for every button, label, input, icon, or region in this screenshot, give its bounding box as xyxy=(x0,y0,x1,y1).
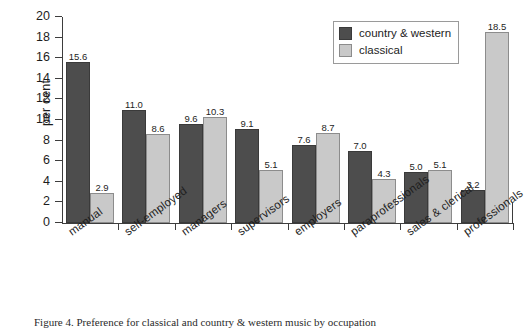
y-axis-tick-label: 2 xyxy=(43,193,50,209)
y-axis-tick: 18 xyxy=(55,37,62,38)
bar-value-label: 5.1 xyxy=(433,159,446,170)
y-axis-tick: 16 xyxy=(55,57,62,58)
bar-value-label: 9.6 xyxy=(184,113,197,124)
y-axis-tick-label: 4 xyxy=(43,173,50,189)
y-axis-tick-label: 0 xyxy=(43,214,50,230)
bar-value-label: 4.3 xyxy=(377,168,390,179)
legend-item-classical: classical xyxy=(339,43,451,58)
y-axis-tick-label: 14 xyxy=(36,70,50,86)
y-axis-tick: 20 xyxy=(55,16,62,17)
x-axis-separator-tick xyxy=(457,223,458,230)
bar-value-label: 15.6 xyxy=(69,51,88,62)
bar-value-label: 11.0 xyxy=(125,99,143,110)
y-axis-tick: 0 xyxy=(55,222,62,223)
y-axis-tick: 8 xyxy=(55,140,62,141)
x-axis-separator-tick xyxy=(344,223,345,230)
y-axis-tick: 10 xyxy=(55,119,62,120)
y-axis-tick-label: 18 xyxy=(36,29,50,45)
bar-value-label: 2.9 xyxy=(95,182,108,193)
figure: per cent 02468101214161820 15.62.911.08.… xyxy=(0,0,526,328)
x-axis-separator-tick xyxy=(175,223,176,230)
y-axis-tick-label: 8 xyxy=(43,132,50,148)
bar-country-western: 7.6 xyxy=(292,145,316,223)
bar-country-western: 9.1 xyxy=(235,129,259,223)
legend-swatch-country-western xyxy=(339,27,352,40)
bar-value-label: 7.0 xyxy=(353,140,366,151)
bar-country-western: 9.6 xyxy=(179,124,203,223)
bar-value-label: 5.1 xyxy=(264,159,277,170)
bar-value-label: 8.7 xyxy=(321,122,334,133)
bar-country-western: 15.6 xyxy=(66,62,90,223)
bar-value-label: 10.3 xyxy=(206,106,225,117)
legend-swatch-classical xyxy=(339,44,352,57)
figure-caption: Figure 4. Preference for classical and c… xyxy=(34,316,504,328)
bar-value-label: 9.1 xyxy=(240,118,253,129)
x-axis-separator-tick xyxy=(513,223,514,230)
bar-country-western: 11.0 xyxy=(122,110,146,223)
y-axis-tick: 14 xyxy=(55,78,62,79)
y-axis-tick-label: 16 xyxy=(36,49,50,65)
legend-label-country-western: country & western xyxy=(359,27,451,40)
y-axis-tick-label: 10 xyxy=(36,111,50,127)
y-axis-tick: 4 xyxy=(55,181,62,182)
x-axis-separator-tick xyxy=(118,223,119,230)
bar-value-label: 8.6 xyxy=(151,123,164,134)
x-axis-separator-tick xyxy=(288,223,289,230)
legend-item-country-western: country & western xyxy=(339,26,451,41)
y-axis-tick: 6 xyxy=(55,160,62,161)
x-axis-separator-tick xyxy=(400,223,401,230)
bar-value-label: 5.0 xyxy=(409,161,422,172)
bar-value-label: 7.6 xyxy=(297,134,310,145)
y-axis-tick-label: 6 xyxy=(43,152,50,168)
legend: country & western classical xyxy=(333,21,459,64)
bar-group: 11.08.6 xyxy=(118,17,174,223)
y-axis-tick: 2 xyxy=(55,201,62,202)
x-axis-separator-tick xyxy=(231,223,232,230)
y-axis-tick-label: 12 xyxy=(36,90,50,106)
bar-group: 9.15.1 xyxy=(231,17,287,223)
legend-label-classical: classical xyxy=(359,44,402,57)
y-axis-tick: 12 xyxy=(55,98,62,99)
bar-group: 15.62.9 xyxy=(62,17,118,223)
y-axis-tick-label: 20 xyxy=(36,8,50,24)
bar-value-label: 18.5 xyxy=(488,21,507,32)
